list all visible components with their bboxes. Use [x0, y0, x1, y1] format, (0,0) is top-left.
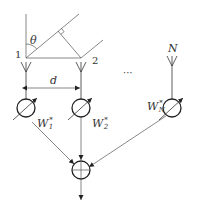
spacing-label: d	[50, 74, 57, 87]
theta-label: θ	[30, 34, 37, 47]
right-angle-mark	[61, 28, 64, 34]
antenna-1	[21, 62, 31, 99]
element-n-label: N	[167, 42, 178, 55]
element-1-label: 1	[15, 49, 21, 60]
antenna-icon	[21, 62, 31, 99]
antenna-icon	[167, 56, 177, 99]
antenna-2	[76, 62, 86, 99]
weight-2-label: W*2	[92, 116, 109, 131]
spacing-dimension: d	[27, 74, 80, 88]
ellipsis: ···	[123, 67, 133, 78]
weight-2: W*2	[68, 98, 109, 131]
summer	[72, 161, 90, 179]
wavefront-geometry: θ 1 2	[15, 14, 103, 66]
element-2-label: 2	[92, 55, 98, 66]
weight-1-label: W*1	[37, 116, 53, 131]
path-difference-perpendicular	[58, 31, 81, 58]
antenna-n: N	[167, 42, 178, 99]
beamformer-diagram: θ 1 2 N d ··· W*1 W*2 W*N	[0, 0, 204, 220]
antenna-icon	[76, 62, 86, 99]
weight-n-label: W*N	[147, 99, 166, 114]
weight-1: W*1	[13, 98, 53, 131]
